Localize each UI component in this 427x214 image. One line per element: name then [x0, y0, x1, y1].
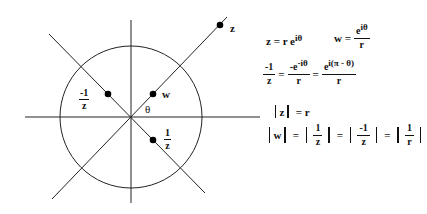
eq3-lhs-num: -1 [263, 62, 275, 75]
label-inv-z: 1 z [164, 128, 171, 151]
label-neg-inv-z-num: -1 [79, 88, 89, 100]
eq1-exp: iθ [295, 33, 302, 43]
ray-minus-theta [49, 34, 205, 193]
eq5-equals: = [337, 129, 343, 141]
eq5-inv-z-den: z [316, 136, 320, 148]
eq5-inv-r-num: 1 [405, 123, 414, 136]
eq5-inv-z: 1 z [313, 123, 322, 147]
abs-bar [420, 127, 421, 143]
eq2-num-exp: iθ [360, 22, 367, 32]
abs-bar [376, 127, 377, 143]
eq5-neg-inv-z-den: z [361, 136, 365, 148]
eq2-lhs: w = [334, 32, 351, 44]
point-inv-z [150, 137, 157, 144]
eq5-inv-r: 1 r [405, 123, 414, 147]
eq3-rhs-exp: i(π - θ) [328, 58, 354, 68]
eq3-rhs-fraction: ei(π - θ) r [322, 62, 356, 86]
eq3-mid-fraction: -e-iθ r [288, 62, 310, 86]
eq5-equals: = [293, 129, 299, 141]
eq1-lhs: z = r e [266, 35, 295, 47]
label-neg-inv-z: -1 z [79, 88, 89, 111]
label-inv-z-den: z [165, 140, 169, 151]
eq5-equals: = [384, 129, 390, 141]
abs-bar [269, 127, 270, 143]
eq4-rhs: = r [296, 106, 310, 118]
eq5-neg-inv-z: -1 z [357, 123, 369, 147]
eq5-inv-r-den: r [407, 136, 411, 148]
abs-bar [306, 127, 307, 143]
eq5-neg-inv-z-num: -1 [357, 123, 369, 136]
eq5-inv-z-num: 1 [313, 123, 322, 136]
eq3-rhs-den: r [337, 75, 341, 87]
eq5-w: w [273, 129, 281, 141]
eq3-lhs-fraction: -1 z [263, 62, 275, 86]
abs-bar [328, 127, 329, 143]
eq3-equals-2: = [313, 68, 319, 80]
equation-modulus-w: w = 1 z = -1 z = 1 r [266, 123, 424, 147]
abs-bar [397, 127, 398, 143]
abs-bar [350, 127, 351, 143]
equation-z-polar: z = r eiθ [266, 35, 302, 47]
eq3-lhs-den: z [267, 75, 271, 87]
point-z [217, 22, 224, 29]
label-w: w [162, 89, 170, 100]
eq2-den: r [360, 39, 364, 51]
equation-w: w = eiθ r [334, 26, 373, 50]
abs-bar [287, 105, 288, 118]
point-neg-inv-z [105, 91, 112, 98]
label-z: z [230, 23, 235, 34]
label-inv-z-num: 1 [164, 128, 171, 140]
abs-bar [284, 127, 285, 143]
eq3-mid-den: r [296, 75, 300, 87]
eq3-equals-1: = [278, 68, 284, 80]
label-neg-inv-z-den: z [82, 100, 86, 111]
eq2-fraction: eiθ r [354, 26, 370, 50]
equation-modulus-z: z = r [272, 105, 310, 118]
equation-neg-inv-z: -1 z = -e-iθ r = ei(π - θ) r [260, 62, 359, 86]
eq3-mid-exp: -iθ [297, 58, 307, 68]
point-w [150, 91, 157, 98]
eq4-lhs: z [279, 106, 284, 118]
label-theta: θ [145, 104, 150, 115]
abs-bar [275, 105, 276, 118]
